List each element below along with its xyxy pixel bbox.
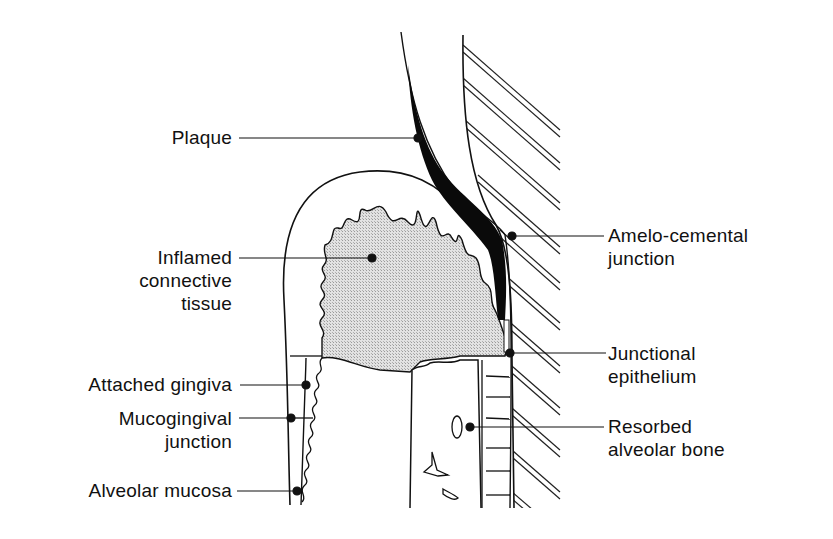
label-alveolar-mucosa: Alveolar mucosa <box>89 479 232 502</box>
label-plaque: Plaque <box>172 126 232 149</box>
alveolar-bone <box>410 360 481 508</box>
junctional-epithelium-strip <box>504 320 509 352</box>
label-inflamed-connective-tissue: Inflamed connective tissue <box>139 246 232 315</box>
label-resorbed-alveolar-bone: Resorbed alveolar bone <box>608 415 725 461</box>
mucosa-outline <box>301 358 306 505</box>
label-junctional-epithelium: Junctional epithelium <box>608 342 697 388</box>
label-mucogingival-junction: Mucogingival junction <box>119 407 232 453</box>
label-amelo-cemental-junction: Amelo-cemental junction <box>608 224 748 270</box>
label-attached-gingiva: Attached gingiva <box>88 373 232 396</box>
marrow-space <box>452 416 462 438</box>
periodontal-ligament-lines <box>486 376 510 495</box>
